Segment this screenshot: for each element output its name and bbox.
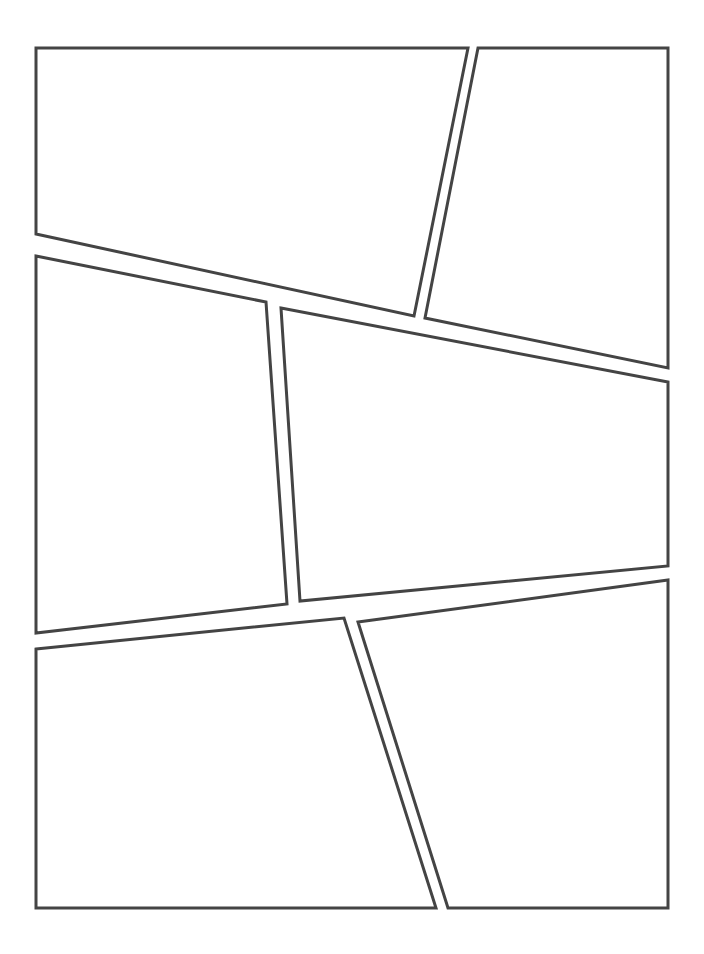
comic-panel-3[interactable] [36, 256, 287, 633]
comic-layout-canvas [0, 0, 704, 954]
comic-page [0, 0, 704, 954]
